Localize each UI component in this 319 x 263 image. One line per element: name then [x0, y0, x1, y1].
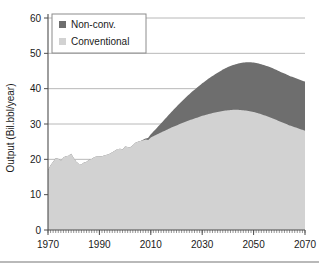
y-tick-label-20: 20: [30, 154, 42, 165]
legend-label-non-conventional: Non-conv.: [71, 19, 116, 30]
y-tick-label-0: 0: [35, 225, 41, 236]
legend-swatch-conventional: [59, 38, 66, 45]
y-axis-title: Output (Bil.bbl/year): [5, 84, 16, 173]
x-tick-label-2070: 2070: [294, 239, 317, 250]
chart-legend: Non-conv. Conventional: [52, 14, 146, 53]
y-tick-label-60: 60: [30, 13, 42, 24]
x-tick-label-2030: 2030: [191, 239, 214, 250]
oil-output-stacked-area-chart: 197019902010203020502070 0102030405060 O…: [0, 0, 319, 263]
legend-label-conventional: Conventional: [71, 36, 129, 47]
x-tick-label-1990: 1990: [88, 239, 111, 250]
y-tick-label-10: 10: [30, 189, 42, 200]
x-tick-label-2010: 2010: [140, 239, 163, 250]
y-tick-label-40: 40: [30, 83, 42, 94]
y-tick-label-50: 50: [30, 48, 42, 59]
x-tick-label-1970: 1970: [37, 239, 60, 250]
legend-swatch-non-conventional: [59, 21, 66, 28]
x-minor-ticks: [48, 230, 305, 233]
chart-figure: 197019902010203020502070 0102030405060 O…: [0, 0, 319, 263]
y-tick-label-30: 30: [30, 119, 42, 130]
x-tick-label-2050: 2050: [242, 239, 265, 250]
